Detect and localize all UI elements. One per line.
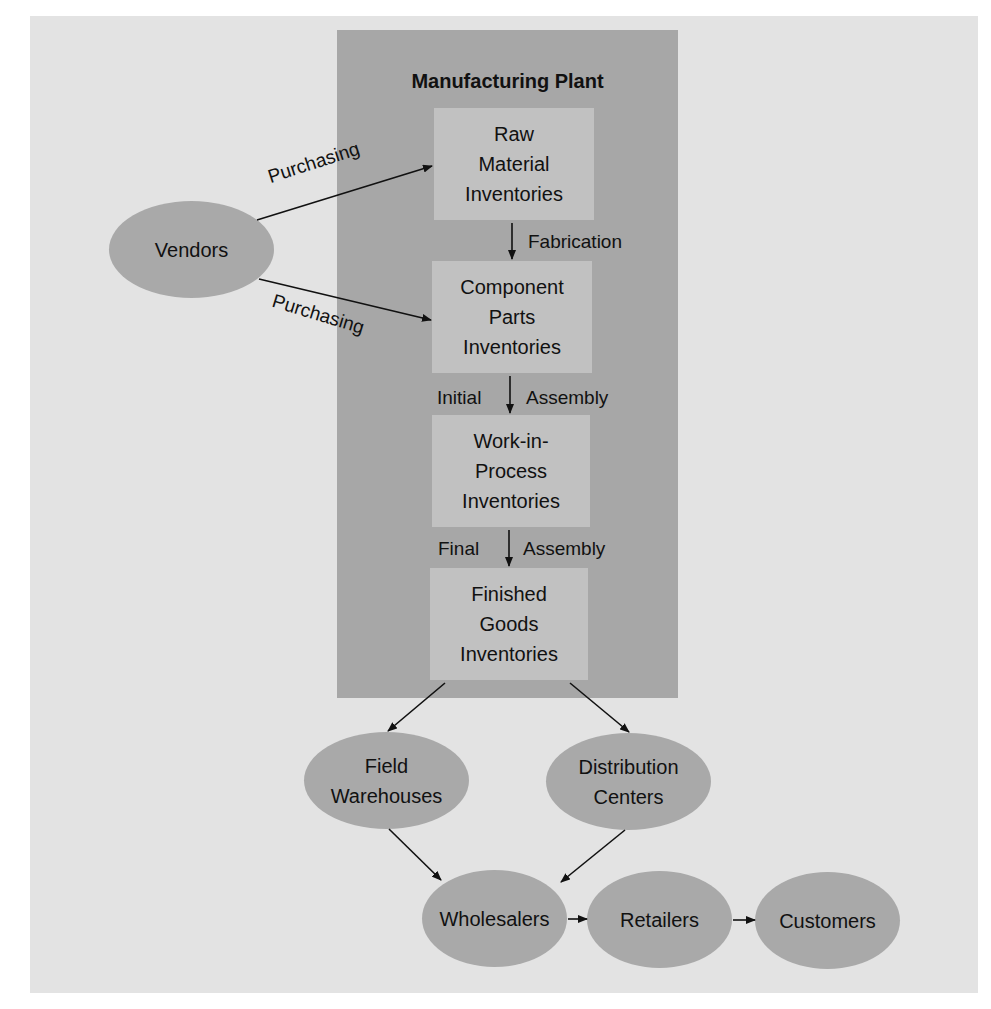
- final-assembly-label: Assembly: [523, 538, 605, 560]
- field-warehouses-label: Field Warehouses: [331, 751, 443, 811]
- finished-goods-inventories: Finished Goods Inventories: [430, 568, 588, 680]
- raw-material-label: Raw Material Inventories: [465, 119, 563, 209]
- initial-label: Initial: [437, 387, 481, 409]
- component-parts-label: Component Parts Inventories: [460, 272, 563, 362]
- wholesalers-label: Wholesalers: [439, 904, 549, 934]
- retailers-node: Retailers: [587, 871, 732, 968]
- raw-material-inventories: Raw Material Inventories: [434, 108, 594, 220]
- vendors-node: Vendors: [109, 201, 274, 298]
- initial-assembly-label: Assembly: [526, 387, 608, 409]
- distribution-centers-label: Distribution Centers: [578, 752, 678, 812]
- retailers-label: Retailers: [620, 905, 699, 935]
- plant-title: Manufacturing Plant: [337, 70, 678, 93]
- field-warehouses-node: Field Warehouses: [304, 732, 469, 829]
- component-parts-inventories: Component Parts Inventories: [432, 261, 592, 373]
- work-in-process-inventories: Work-in- Process Inventories: [432, 415, 590, 527]
- wholesalers-node: Wholesalers: [422, 870, 567, 967]
- distribution-centers-node: Distribution Centers: [546, 733, 711, 830]
- vendors-label: Vendors: [155, 235, 228, 265]
- customers-node: Customers: [755, 872, 900, 969]
- wip-label: Work-in- Process Inventories: [462, 426, 560, 516]
- finished-goods-label: Finished Goods Inventories: [460, 579, 558, 669]
- fabrication-label: Fabrication: [528, 231, 622, 253]
- customers-label: Customers: [779, 906, 876, 936]
- final-label: Final: [438, 538, 479, 560]
